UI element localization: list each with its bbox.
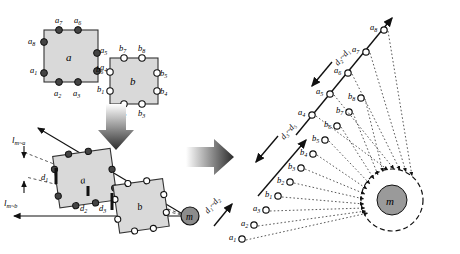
arrow-span-d2-d1	[312, 62, 332, 86]
node-m-middle-label: m	[186, 212, 193, 222]
label-b3: b3	[138, 108, 145, 119]
label-l-m-b: lm~b	[4, 198, 17, 209]
node-m-right-label: m	[386, 195, 394, 207]
label-b5-right: b5	[312, 133, 319, 144]
label-d1: d1	[41, 172, 48, 183]
point-a3-right	[263, 207, 269, 213]
label-a8: a8	[28, 36, 35, 47]
label-a2: a2	[54, 88, 61, 99]
label-span-d3-d5: d₃~d₅	[278, 120, 298, 141]
point-b3	[139, 101, 145, 107]
point-a4-right	[309, 112, 315, 118]
point-a1-right	[239, 236, 245, 242]
label-b4: b4	[160, 86, 167, 97]
arrow-span-d1-d2	[214, 204, 232, 226]
point-b6-right	[334, 123, 340, 129]
right-panel: m a4 a5 a6 a7 a8	[202, 18, 423, 243]
label-a8-right: a8	[370, 22, 377, 33]
point-a2-right	[251, 222, 257, 228]
middle-panel: a b	[4, 128, 199, 236]
label-a6: a6	[74, 15, 81, 26]
point-a7-right	[363, 49, 369, 55]
label-a3-right: a3	[253, 203, 260, 214]
label-span-d2-d1: d₂~d₁	[332, 46, 352, 67]
label-span-d1-d2: d₁~d₂	[202, 194, 222, 215]
label-a7-right: a7	[352, 44, 360, 55]
point-b8-right	[358, 95, 364, 101]
label-l-m-a-group: lm~a	[12, 135, 25, 158]
label-a7: a7	[55, 15, 63, 26]
label-b1-right: b1	[265, 189, 272, 200]
label-a4-right: a4	[298, 107, 305, 118]
point-a2	[56, 79, 63, 86]
label-a3: a3	[73, 88, 80, 99]
point-a8-right	[381, 27, 387, 33]
point-b1-right	[275, 193, 281, 199]
diagram-canvas: a a1 a2 a3 a4 a5 a6 a7 a8 b	[0, 0, 460, 254]
label-a5-right: a5	[316, 86, 323, 97]
label-d3: d3	[99, 203, 106, 214]
square-a-group: a a1 a2 a3 a4 a5 a6 a7 a8	[28, 15, 107, 99]
label-b7: b7	[119, 43, 127, 54]
square-b-label: b	[130, 75, 136, 87]
arrow-right-icon	[186, 139, 234, 175]
label-l-m-b-group: lm~b	[4, 181, 24, 209]
label-b8-right: b8	[348, 91, 355, 102]
label-b4-right: b4	[300, 147, 307, 158]
label-b6-right: b6	[324, 119, 331, 130]
upper-ray-labels: a4 a5 a6 a7 a8	[298, 22, 377, 118]
point-b7-right	[346, 109, 352, 115]
arrow-span-d3-d5	[256, 136, 278, 162]
point-a1	[41, 70, 48, 77]
node-m-middle: m	[181, 207, 199, 225]
point-b7	[121, 55, 127, 61]
point-a5-right	[327, 91, 333, 97]
point-b3-right	[298, 165, 304, 171]
point-b6	[107, 69, 113, 75]
point-a8	[41, 39, 48, 46]
square-a-label: a	[66, 51, 72, 63]
point-a3	[75, 79, 82, 86]
label-b8: b8	[138, 43, 145, 54]
label-b2-right: b2	[277, 175, 284, 186]
point-a6	[75, 27, 82, 34]
label-l-m-a: lm~a	[12, 135, 25, 146]
square-a-rotated	[53, 148, 118, 208]
point-a6-right	[345, 70, 351, 76]
label-b3-right: b3	[288, 161, 295, 172]
label-b5: b5	[160, 68, 167, 79]
point-b5-right	[322, 137, 328, 143]
label-a2-right: a2	[241, 218, 248, 229]
label-b1: b1	[97, 84, 104, 95]
label-a1: a1	[30, 65, 37, 76]
label-b7-right: b7	[336, 105, 344, 116]
arrow-down-icon	[98, 104, 134, 150]
square-b-rotated-group: b	[110, 175, 172, 236]
point-b1	[107, 88, 113, 94]
figure-root: a a1 a2 a3 a4 a5 a6 a7 a8 b	[0, 0, 460, 254]
label-a5: a5	[100, 45, 107, 56]
point-b8	[139, 55, 145, 61]
square-a-rotated-group: a	[49, 145, 120, 211]
point-b2-right	[287, 179, 293, 185]
label-a1-right: a1	[229, 232, 236, 243]
point-b4-right	[310, 151, 316, 157]
point-a7	[56, 27, 63, 34]
